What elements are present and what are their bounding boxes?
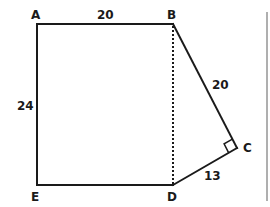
length-label-AB: 20 [97,8,114,22]
vertex-label-D: D [167,190,177,204]
vertex-label-B: B [167,8,176,22]
length-label-CD: 13 [204,169,221,183]
vertex-label-C: C [243,141,252,155]
length-label-AE: 24 [17,99,34,113]
vertex-label-E: E [31,190,39,204]
vertex-label-A: A [31,8,41,22]
length-label-BC: 20 [212,78,229,92]
geometry-diagram: A B C D E 20 24 20 13 [0,0,270,207]
